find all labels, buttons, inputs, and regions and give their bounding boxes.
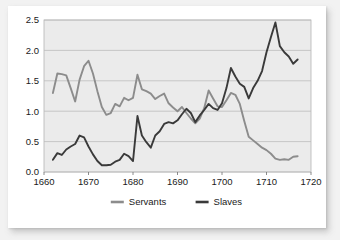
- plot-area-background: [44, 20, 311, 172]
- line-chart: 0.00.51.01.52.02.5 166016701680169017001…: [8, 6, 326, 228]
- legend-label-servants: Servants: [129, 196, 167, 207]
- x-tick-label: 1670: [78, 176, 99, 187]
- chart-svg: 0.00.51.01.52.02.5 166016701680169017001…: [8, 6, 326, 228]
- x-tick-label: 1690: [167, 176, 188, 187]
- y-tick-label: 2.0: [26, 45, 39, 56]
- y-tick-label: 1.5: [26, 75, 39, 86]
- screenshot-root: 0.00.51.01.52.02.5 166016701680169017001…: [0, 0, 340, 240]
- legend-label-slaves: Slaves: [214, 196, 243, 207]
- x-tick-label: 1700: [211, 176, 232, 187]
- y-tick-label: 1.0: [26, 106, 39, 117]
- chart-card: 0.00.51.01.52.02.5 166016701680169017001…: [8, 6, 326, 228]
- y-tick-label: 0.5: [26, 136, 39, 147]
- x-tick-label: 1680: [122, 176, 143, 187]
- x-tick-label: 1710: [256, 176, 277, 187]
- x-tick-label: 1720: [300, 176, 321, 187]
- x-tick-label: 1660: [33, 176, 54, 187]
- y-tick-label: 2.5: [26, 14, 39, 25]
